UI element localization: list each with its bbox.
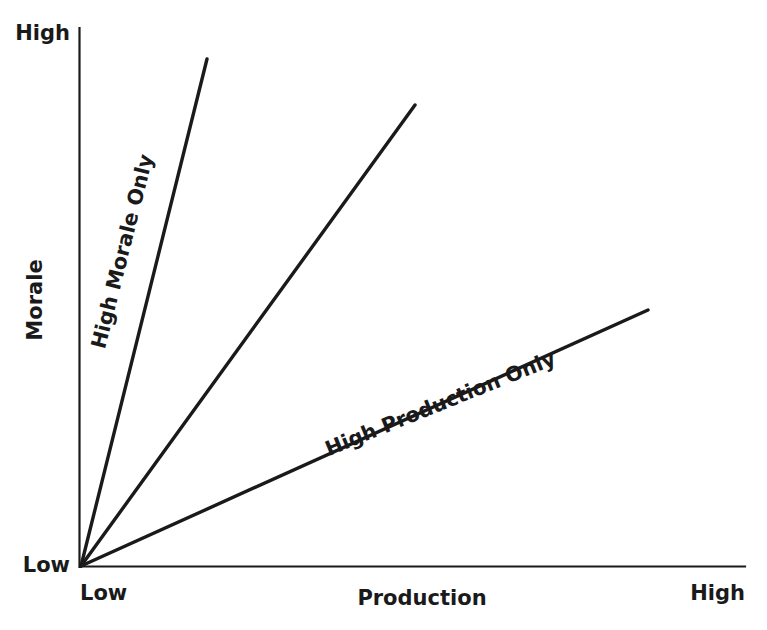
x-axis-high-tick-label: High <box>690 581 745 605</box>
x-axis-title: Production <box>357 586 486 610</box>
y-axis-title: Morale <box>23 259 47 340</box>
y-axis-high-tick-label: High <box>15 21 70 45</box>
chart-plot-area: High Low Morale Low High Production High… <box>0 0 767 630</box>
y-axis-low-tick-label: Low <box>23 553 70 577</box>
chart-container: High Low Morale Low High Production High… <box>0 0 767 630</box>
x-axis-low-tick-label: Low <box>80 581 127 605</box>
annotation-high-morale-only: High Morale Only <box>86 152 158 351</box>
annotation-high-production-only: High Production Only <box>322 346 559 461</box>
